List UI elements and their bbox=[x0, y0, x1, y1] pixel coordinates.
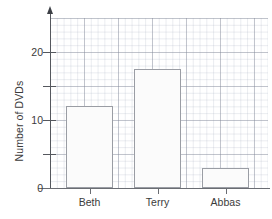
y-tick-label-10: 10 bbox=[17, 114, 43, 126]
y-tick-label-0: 0 bbox=[17, 182, 43, 194]
plot-area bbox=[50, 18, 268, 188]
x-tick-label-beth: Beth bbox=[60, 196, 120, 208]
x-tick-label-abbas: Abbas bbox=[196, 196, 256, 208]
x-tick-mark-abbas bbox=[226, 188, 227, 194]
x-tick-mark-beth bbox=[90, 188, 91, 194]
arrow-up-icon bbox=[47, 6, 53, 14]
y-tick-label-20: 20 bbox=[17, 46, 43, 58]
x-tick-mark-terry bbox=[158, 188, 159, 194]
x-tick-label-terry: Terry bbox=[128, 196, 188, 208]
y-tick-mark-5 bbox=[43, 154, 56, 155]
bar-terry bbox=[134, 69, 181, 188]
x-axis-line bbox=[38, 188, 270, 189]
bar-chart: Number of DVDs 20 10 0 Beth Terry Abbas bbox=[0, 0, 272, 219]
bar-beth bbox=[66, 106, 113, 188]
y-axis-line bbox=[50, 12, 51, 189]
bar-abbas bbox=[202, 168, 249, 188]
y-tick-mark-10 bbox=[43, 120, 56, 121]
y-tick-mark-20 bbox=[43, 52, 56, 53]
y-tick-mark-15 bbox=[43, 86, 56, 87]
